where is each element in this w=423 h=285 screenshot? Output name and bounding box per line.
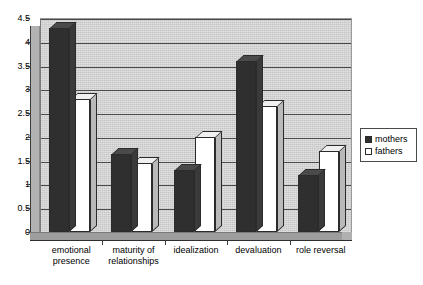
legend-item-mothers: mothers [365,133,412,145]
bar-side-face [194,164,201,232]
bar-side-face [131,147,138,232]
plot-area-wrapper [30,18,352,240]
bar-side-face [256,55,263,232]
gridline [41,67,351,68]
bar-front-face [236,61,256,232]
bar-chart: 4.543.532.521.510.50 emotionalpresencema… [0,0,423,285]
legend-label: fathers [375,146,403,156]
x-axis-tick [165,240,166,245]
x-axis-tick [290,240,291,245]
y-axis: 4.543.532.521.510.50 [0,0,30,285]
legend-label: mothers [375,134,408,144]
legend-swatch-fathers [365,148,372,155]
bar-side-face [318,169,325,232]
bar-front-face [111,154,131,232]
bar-mothers-2 [174,170,194,232]
bar-side-face [277,100,284,232]
bar-mothers-0 [49,28,69,232]
bar-side-face [69,21,76,232]
bar-front-face [174,170,194,232]
bar-mothers-4 [298,175,318,232]
x-axis-label-line: relationships [94,256,172,267]
chart-title [0,0,423,9]
bar-side-face [339,145,346,232]
bar-mothers-1 [111,154,131,232]
legend-item-fathers: fathers [365,145,412,157]
bar-front-face [298,175,318,232]
legend-swatch-mothers [365,136,372,143]
x-axis-tick [102,240,103,245]
x-axis-labels: emotionalpresencematurity ofrelationship… [30,245,352,281]
bar-side-face [90,93,97,232]
gridline [41,90,351,91]
chart-legend: mothersfathers [360,128,417,162]
y-axis-line [30,26,31,240]
bar-front-face [49,28,69,232]
gridline [41,43,351,44]
gridline [41,19,351,20]
bar-side-face [152,157,159,232]
plot-area [40,18,352,232]
x-axis-line [30,240,352,241]
x-axis-label-4: role reversal [282,245,360,256]
bar-mothers-3 [236,61,256,232]
bar-side-face [215,131,222,232]
x-axis-tick [227,240,228,245]
x-axis-label-line: role reversal [282,245,360,256]
plot-left-wall [30,26,40,240]
